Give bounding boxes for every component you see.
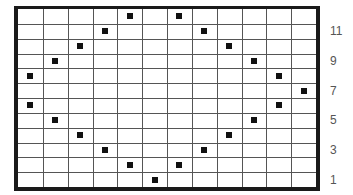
gridline-horizontal [18,68,316,69]
row-label-11: 11 [330,24,342,38]
stitch-marker [176,13,182,19]
stitch-marker [226,132,232,138]
row-label-3: 3 [330,143,337,157]
gridline-horizontal [18,24,316,25]
stitch-marker [102,28,108,34]
gridline-horizontal [18,54,316,55]
gridline-horizontal [18,98,316,99]
gridline-horizontal [18,143,316,144]
row-label-9: 9 [330,54,337,68]
stitch-marker [77,43,83,49]
stitch-marker [226,43,232,49]
stitch-marker [127,13,133,19]
row-label-7: 7 [330,84,337,98]
stitch-marker [52,58,58,64]
stitch-marker [27,102,33,108]
stitch-marker [27,73,33,79]
stitch-marker [276,73,282,79]
gridline-horizontal [18,83,316,84]
stitch-marker [251,117,257,123]
stitch-marker [201,28,207,34]
pattern-grid [14,6,320,191]
stitch-marker [127,162,133,168]
stitch-marker [301,88,307,94]
gridline-horizontal [18,39,316,40]
stitch-marker [276,102,282,108]
stitch-marker [77,132,83,138]
gridline-horizontal [18,157,316,158]
gridline-horizontal [18,128,316,129]
stitch-marker [152,177,158,183]
stitch-marker [52,117,58,123]
stitch-marker [251,58,257,64]
gridline-horizontal [18,172,316,173]
row-label-5: 5 [330,113,337,127]
gridline-horizontal [18,113,316,114]
stitch-marker [201,147,207,153]
stitch-marker [176,162,182,168]
stitch-marker [102,147,108,153]
row-label-1: 1 [330,173,337,187]
